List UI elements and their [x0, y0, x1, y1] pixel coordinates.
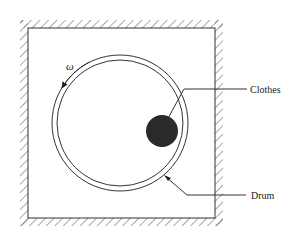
drum-label: Drum [251, 190, 275, 201]
housing-wall [28, 28, 215, 218]
clothes-blob [146, 115, 178, 147]
drum-leader-line [166, 177, 246, 195]
clothes-label: Clothes [250, 84, 281, 95]
omega-label: ω [66, 60, 74, 72]
drum-diagram: ω Clothes Drum [0, 0, 296, 241]
